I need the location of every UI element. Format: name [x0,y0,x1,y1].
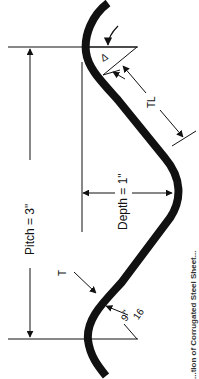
thickness-arrow [74,272,96,293]
radius-denominator: 16 [131,306,147,322]
pitch-label: Pitch = 3" [23,204,37,255]
corrugated-sheet-profile [86,3,179,376]
corrugation-profile-diagram: Pitch = 3" Depth = 1" Δ TL T 9 " 16 ...t… [0,0,199,379]
radius-label: 9 " 16 [117,300,146,329]
tangent-angle-pointer-top [108,26,118,45]
thickness-label: T [57,270,68,276]
figure-caption: ...tion of Corrugated Steel Sheet... [189,251,198,379]
radius-leader [124,324,137,339]
tl-arrow-bottom [160,110,183,137]
tl-label: TL [146,96,157,108]
tl-arrow-top [123,66,146,93]
delta-label: Δ [99,51,111,64]
depth-label: Depth = 1" [116,173,130,230]
tl-extension-bottom [172,131,196,146]
tl-arrow-top-inner [113,72,125,79]
